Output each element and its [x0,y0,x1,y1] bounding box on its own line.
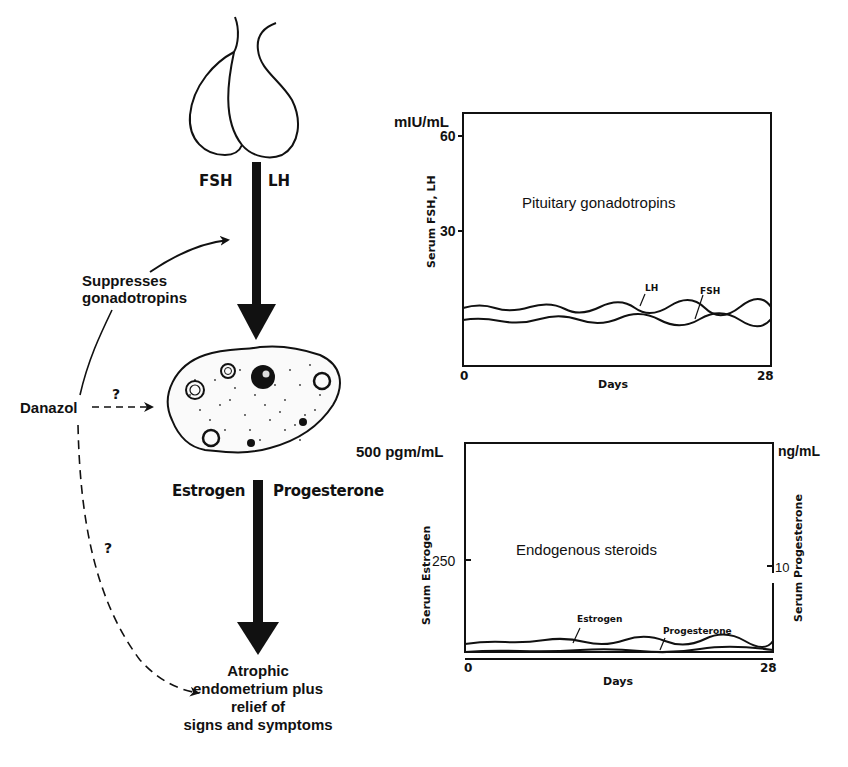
danazol-suppress-line [80,310,112,395]
bottom-chart-title: Endogenous steroids [516,541,657,558]
danazol-label: Danazol [20,399,78,416]
top-chart-tick-30: 30 [440,223,456,239]
danazol-endometrium-dashed-arrow-icon [78,425,198,693]
bottom-chart-x28: 28 [760,661,777,675]
top-chart-lh-label: LH [645,283,658,293]
ovary-icon [168,346,340,452]
top-chart-ylabel: Serum FSH, LH [425,175,438,268]
bottom-chart-xlabel: Days [603,675,633,688]
progesterone-output-label: Progesterone [273,482,384,500]
outcome-line3: relief of [163,698,353,716]
suppresses-label-line1: Suppresses [82,272,167,289]
bottom-chart-ylabel-right: Serum Progesterone [792,494,805,622]
bottom-chart-unit-left: 500 pgm/mL [356,443,444,460]
bottom-chart-tick-10: 10 [775,560,789,575]
pituitary-gland-icon [190,17,298,157]
top-chart-x0: 0 [460,369,468,383]
chart-top-frame [458,113,771,366]
estrogen-output-label: Estrogen [172,482,245,500]
bottom-chart-unit-right: ng/mL [778,443,820,459]
estrogen-series-line [465,634,773,647]
bottom-chart-ylabel-left: Serum Estrogen [420,526,433,625]
lh-label: LH [268,172,290,190]
bottom-chart-x0: 0 [464,661,472,675]
outcome-label: Atrophic endometrium plus relief of sign… [163,662,353,734]
outcome-line2: endometrium plus [163,680,353,698]
steroid-arrow-icon [237,480,279,655]
top-chart-title: Pituitary gonadotropins [522,194,675,211]
ovary-question-mark: ? [112,386,120,402]
endometrium-question-mark: ? [104,540,112,556]
top-chart-x28: 28 [757,369,774,383]
outcome-line4: signs and symptoms [163,716,353,734]
outcome-line1: Atrophic [163,662,353,680]
bottom-chart-estrogen-label: Estrogen [577,614,622,624]
bottom-chart-tick-250: 250 [432,553,455,569]
suppress-arrow-icon [150,240,228,272]
top-chart-xlabel: Days [598,378,628,391]
top-chart-tick-60: 60 [440,128,456,144]
fsh-label: FSH [199,172,233,190]
top-chart-fsh-label: FSH [700,286,720,296]
suppresses-label-line2: gonadotropins [82,289,187,306]
bottom-chart-progesterone-label: Progesterone [663,626,732,636]
